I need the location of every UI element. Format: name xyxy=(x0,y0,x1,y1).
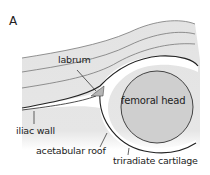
label-triradiate-cartilage: triradiate cartilage xyxy=(113,155,198,166)
panel-label: A xyxy=(9,14,17,28)
label-labrum: labrum xyxy=(58,54,90,65)
label-acetabular-roof: acetabular roof xyxy=(36,145,106,156)
label-femoral-head: femoral head xyxy=(121,95,185,106)
femoral-head-circle xyxy=(121,71,193,143)
label-iliac-wall: iliac wall xyxy=(16,125,55,136)
